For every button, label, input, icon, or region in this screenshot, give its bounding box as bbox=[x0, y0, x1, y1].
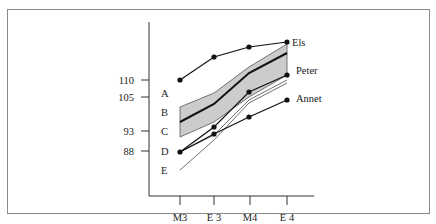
x-tick-label: E 3 bbox=[207, 212, 221, 223]
level-labels: A B C D E bbox=[161, 88, 169, 176]
series-label-annet: Annet bbox=[296, 93, 322, 104]
y-ticks: 110 105 93 88 bbox=[118, 75, 149, 157]
level-label: A bbox=[161, 88, 169, 99]
y-tick-label: 105 bbox=[118, 92, 134, 103]
x-ticks: M3 E 3 M4 E 4 bbox=[173, 196, 295, 223]
x-tick-label: M3 bbox=[173, 212, 188, 223]
line-chart: 110 105 93 88 A B C D E M3 E 3 M4 E 4 El… bbox=[0, 0, 436, 224]
y-tick-label: 93 bbox=[124, 126, 135, 137]
series-label-peter: Peter bbox=[296, 65, 318, 76]
level-label: E bbox=[161, 165, 167, 176]
level-label: B bbox=[161, 107, 168, 118]
y-tick-label: 110 bbox=[119, 75, 134, 86]
series-label-els: Els bbox=[292, 37, 305, 48]
range-band bbox=[180, 44, 287, 137]
level-label: C bbox=[161, 126, 168, 137]
y-tick-label: 88 bbox=[124, 146, 135, 157]
level-label: D bbox=[161, 146, 169, 157]
x-tick-label: M4 bbox=[243, 212, 258, 223]
x-tick-label: E 4 bbox=[280, 212, 295, 223]
